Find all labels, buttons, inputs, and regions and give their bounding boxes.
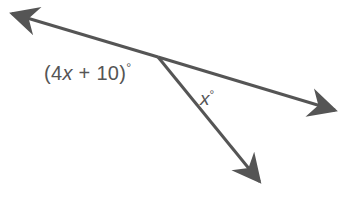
angle-label-expression: (4x + 10)° (44, 62, 132, 83)
ray-right (158, 57, 335, 110)
expression-open-paren: ( (44, 62, 51, 84)
ray-lower-right (158, 57, 260, 182)
degree-symbol-icon: ° (210, 87, 215, 100)
angle-diagram: (4x + 10)° x° (0, 0, 358, 208)
expression-plus: + (73, 62, 97, 84)
angle-label-unknown: x° (200, 88, 214, 108)
degree-symbol-icon: ° (126, 61, 131, 75)
diagram-canvas (0, 0, 358, 208)
expression-variable: x (62, 62, 72, 84)
expression-constant: 10 (96, 62, 119, 84)
expression-coefficient: 4 (51, 62, 62, 84)
unknown-variable: x (200, 88, 210, 109)
ray-upper-left (12, 14, 158, 58)
